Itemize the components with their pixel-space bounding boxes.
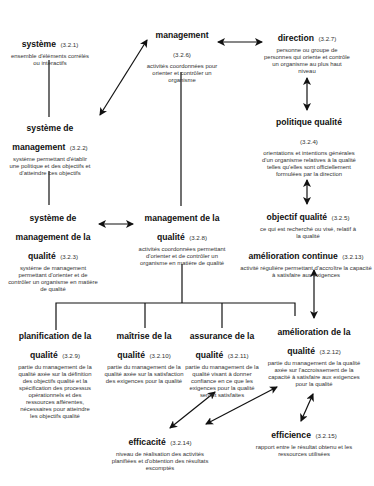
- term: système de management de la qualité: [16, 213, 91, 261]
- definition: activités coordonnées permettant d'orien…: [138, 246, 226, 267]
- term: amélioration continue: [248, 251, 337, 261]
- ref: (3.2.13): [342, 253, 363, 260]
- term: efficacité: [128, 437, 165, 447]
- definition: orientations et intentions générales d'u…: [261, 150, 357, 178]
- definition: partie du management de la qualité axée …: [266, 360, 362, 388]
- term: politique qualité: [276, 117, 342, 127]
- node-amelioration-continue: amélioration continue (3.2.13) activité …: [238, 245, 374, 279]
- definition: partie du management de la qualité axée …: [16, 364, 94, 420]
- term: efficience: [271, 430, 311, 440]
- term: direction: [278, 33, 314, 43]
- node-planification-de-la-qualite: planification de la qualité (3.2.9) part…: [16, 325, 94, 420]
- definition: activités coordonnées pour orienter et c…: [142, 63, 222, 84]
- definition: système permettant d'établir une politiq…: [8, 156, 92, 177]
- term: management de la qualité: [145, 213, 220, 242]
- ref: (3.2.12): [319, 348, 340, 355]
- definition: système de management permettant d'orien…: [8, 265, 98, 293]
- definition: rapport entre le résultat obtenu et les …: [252, 444, 356, 458]
- definition: personne ou groupe de personnes qui orie…: [264, 47, 350, 75]
- ref: (3.2.6): [173, 51, 191, 58]
- term: management: [155, 30, 208, 40]
- node-efficience: efficience (3.2.15) rapport entre le rés…: [252, 424, 356, 458]
- node-politique-qualite: politique qualité (3.2.4) orientations e…: [261, 111, 357, 178]
- ref: (3.2.5): [332, 214, 350, 221]
- term: système: [22, 39, 56, 49]
- definition: partie du management de la qualité visan…: [182, 364, 262, 399]
- node-assurance-de-la-qualite: assurance de la qualité (3.2.11) partie …: [182, 325, 262, 399]
- node-objectif-qualite: objectif qualité (3.2.5) ce qui est rech…: [258, 206, 358, 240]
- ref: (3.2.1): [60, 41, 78, 48]
- ref: (3.2.8): [189, 234, 207, 241]
- node-systeme: système (3.2.1) ensemble d'éléments corr…: [8, 33, 92, 67]
- ref: (3.2.15): [315, 432, 336, 439]
- node-direction: direction (3.2.7) personne ou groupe de …: [264, 27, 350, 75]
- node-systeme-de-management-de-la-qualite: système de management de la qualité (3.2…: [8, 207, 98, 293]
- ref: (3.2.4): [300, 138, 318, 145]
- ref: (3.2.3): [60, 253, 78, 260]
- definition: niveau de réalisation des activités plan…: [110, 451, 210, 472]
- ref: (3.2.10): [149, 352, 170, 359]
- node-systeme-de-management: système de management (3.2.2) système pe…: [8, 117, 92, 177]
- term: système de management: [12, 123, 73, 152]
- ref: (3.2.11): [228, 352, 249, 359]
- term: planification de la qualité: [19, 331, 92, 360]
- node-amelioration-de-la-qualite: amélioration de la qualité (3.2.12) part…: [266, 321, 362, 388]
- ref: (3.2.14): [170, 439, 191, 446]
- ref: (3.2.7): [318, 35, 336, 42]
- ref: (3.2.9): [62, 352, 80, 359]
- definition: ensemble d'éléments corrélés ou interact…: [8, 53, 92, 67]
- node-management-de-la-qualite: management de la qualité (3.2.8) activit…: [138, 207, 226, 267]
- node-efficacite: efficacité (3.2.14) niveau de réalisatio…: [110, 431, 210, 472]
- arrow-mgmt-sysmgmt: [100, 40, 147, 115]
- node-management: management (3.2.6) activités coordonnées…: [142, 24, 222, 84]
- ref: (3.2.2): [70, 144, 88, 151]
- definition: ce qui est recherché ou visé, relatif à …: [258, 226, 358, 240]
- node-maitrise-de-la-qualite: maîtrise de la qualité (3.2.10) partie d…: [104, 325, 184, 385]
- term: objectif qualité: [267, 212, 328, 222]
- arrow-amelioration-efficience: [301, 394, 313, 421]
- definition: activité régulière permettant d'accroîtr…: [238, 265, 374, 279]
- definition: partie du management de la qualité axée …: [104, 364, 184, 385]
